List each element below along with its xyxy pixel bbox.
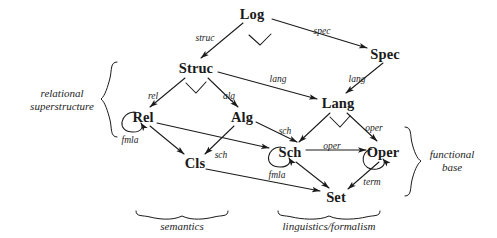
edge-label-sch-upper: sch [279, 126, 292, 136]
edge-label-term: term [363, 177, 380, 187]
node-oper[interactable]: Oper [367, 144, 400, 161]
edge-label-struc: struc [196, 33, 215, 43]
group-label-line2: base [430, 161, 475, 174]
edge-label-oper-right: oper [365, 123, 382, 133]
brace-functional-base [405, 127, 421, 196]
commuting-marker-log [249, 34, 271, 45]
edge-cls-set [206, 169, 320, 191]
node-alg[interactable]: Alg [231, 109, 253, 126]
group-label-functional-base: functional base [430, 148, 475, 173]
edge-sch-set [296, 162, 329, 188]
edge-label-oper-mid: oper [323, 141, 340, 151]
edge-label-spec: spec [314, 26, 331, 36]
commuting-marker-struc [186, 82, 206, 93]
node-cls[interactable]: Cls [185, 155, 205, 172]
group-label-line1: functional [430, 148, 475, 161]
edge-label-sch-lower: sch [215, 150, 228, 160]
commuting-marker-lang [330, 116, 350, 127]
loop-label-sch-fmla: fmla [269, 170, 286, 180]
group-label-line2: superstructure [30, 100, 94, 113]
node-rel[interactable]: Rel [132, 109, 153, 126]
group-label-relational-superstructure: relational superstructure [30, 87, 94, 112]
brace-relational-superstructure [101, 62, 117, 137]
edge-rel-cls [150, 126, 184, 154]
node-sch[interactable]: Sch [279, 144, 302, 161]
diagram-canvas: Log Spec Struc Lang Rel Alg Sch Oper Cls… [0, 0, 497, 238]
group-label-linguistics-formalism: linguistics/formalism [283, 220, 376, 233]
node-lang[interactable]: Lang [322, 95, 355, 112]
node-struc[interactable]: Struc [179, 60, 213, 77]
brace-linguistics-formalism [278, 211, 380, 219]
edge-label-lang-left: lang [270, 74, 287, 84]
node-spec[interactable]: Spec [370, 46, 399, 63]
edge-label-lang-right: lang [349, 74, 366, 84]
group-label-line1: relational [30, 87, 94, 100]
edge-rel-sch [157, 123, 269, 148]
group-label-semantics: semantics [160, 220, 203, 233]
node-log[interactable]: Log [240, 6, 264, 23]
brace-semantics [136, 211, 228, 219]
edge-label-rel: rel [148, 91, 158, 101]
edge-label-alg: alg [223, 91, 235, 101]
edge-lang-sch [299, 113, 330, 142]
loop-label-rel-fmla: fmla [122, 135, 139, 145]
node-set[interactable]: Set [326, 189, 346, 206]
